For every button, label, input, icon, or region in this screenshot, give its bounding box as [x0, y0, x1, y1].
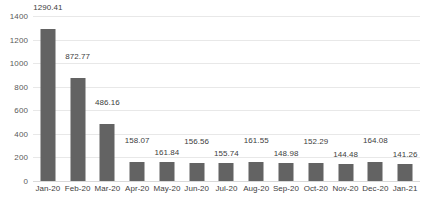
bar-value-label: 486.16: [95, 98, 120, 107]
x-axis-tick-label: Feb-20: [65, 184, 91, 193]
bar[interactable]: [159, 162, 174, 181]
bar[interactable]: [70, 78, 85, 181]
bar-value-label: 164.08: [363, 136, 388, 145]
bar-slot[interactable]: 141.26: [390, 16, 420, 181]
y-axis-tick-label: 200: [14, 153, 28, 162]
y-axis-tick-label: 1000: [10, 59, 28, 68]
y-axis: 0200400600800100012001400: [0, 0, 31, 209]
bar-value-label: 152.29: [303, 137, 328, 146]
x-axis-tick-label: Mar-20: [95, 184, 121, 193]
x-axis-tick-label: Jul-20: [215, 184, 237, 193]
bar[interactable]: [130, 162, 145, 181]
bar[interactable]: [398, 164, 413, 181]
plot-area: 1290.41872.77486.16158.07161.84156.56155…: [33, 16, 420, 181]
bar[interactable]: [338, 164, 353, 181]
bar-slot[interactable]: 144.48: [331, 16, 361, 181]
y-axis-tick-label: 0: [23, 177, 28, 186]
bar[interactable]: [100, 124, 115, 181]
bar-value-label: 155.74: [214, 149, 239, 158]
bar-value-label: 161.55: [244, 136, 269, 145]
gridline: [33, 181, 420, 182]
x-axis-tick-label: Nov-20: [333, 184, 359, 193]
bar-slot[interactable]: 1290.41: [33, 16, 63, 181]
bar-slot[interactable]: 161.84: [152, 16, 182, 181]
bar-value-label: 158.07: [125, 136, 150, 145]
x-axis-tick-label: Aug-20: [243, 184, 269, 193]
y-axis-tick-label: 800: [14, 82, 28, 91]
x-axis-tick-label: Oct-20: [304, 184, 328, 193]
bar-value-label: 144.48: [333, 150, 358, 159]
bar-series: 1290.41872.77486.16158.07161.84156.56155…: [33, 16, 420, 181]
bar-value-label: 141.26: [393, 150, 418, 159]
bar-slot[interactable]: 148.98: [271, 16, 301, 181]
bar-slot[interactable]: 164.08: [360, 16, 390, 181]
bar[interactable]: [189, 163, 204, 181]
x-axis-tick-label: Jan-21: [393, 184, 418, 193]
bar-value-label: 156.56: [184, 137, 209, 146]
bar-value-label: 872.77: [65, 52, 90, 61]
y-axis-tick-label: 1200: [10, 35, 28, 44]
bar-slot[interactable]: 161.55: [241, 16, 271, 181]
bar-slot[interactable]: 872.77: [63, 16, 93, 181]
x-axis-tick-label: Sep-20: [273, 184, 299, 193]
bar-chart: 0200400600800100012001400 1290.41872.774…: [0, 0, 436, 209]
bar[interactable]: [308, 163, 323, 181]
bar[interactable]: [40, 29, 55, 181]
x-axis: Jan-20Feb-20Mar-20Apr-20May-20Jun-20Jul-…: [33, 184, 420, 198]
bar[interactable]: [368, 162, 383, 181]
bar[interactable]: [249, 162, 264, 181]
bar-value-label: 161.84: [155, 148, 180, 157]
bar-slot[interactable]: 152.29: [301, 16, 331, 181]
x-axis-tick-label: Apr-20: [125, 184, 149, 193]
x-axis-tick-label: Dec-20: [362, 184, 388, 193]
x-axis-tick-label: May-20: [153, 184, 180, 193]
bar-value-label: 148.98: [274, 149, 299, 158]
x-axis-tick-label: Jun-20: [184, 184, 209, 193]
y-axis-tick-label: 400: [14, 129, 28, 138]
y-axis-tick-label: 1400: [10, 12, 28, 21]
y-axis-tick-label: 600: [14, 106, 28, 115]
bar-slot[interactable]: 158.07: [122, 16, 152, 181]
bar[interactable]: [279, 163, 294, 181]
bar-slot[interactable]: 155.74: [212, 16, 242, 181]
bar-slot[interactable]: 156.56: [182, 16, 212, 181]
x-axis-tick-label: Jan-20: [35, 184, 60, 193]
bar[interactable]: [219, 163, 234, 181]
bar-slot[interactable]: 486.16: [93, 16, 123, 181]
bar-value-label: 1290.41: [33, 3, 62, 12]
